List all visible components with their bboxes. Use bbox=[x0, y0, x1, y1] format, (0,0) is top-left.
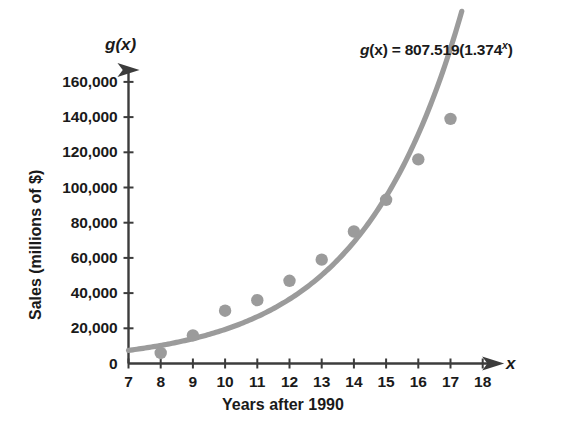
equation-g: g bbox=[360, 41, 369, 58]
x-axis-title: Years after 1990 bbox=[222, 397, 344, 413]
data-point bbox=[251, 294, 263, 306]
y-tick-label: 80,000 bbox=[0, 215, 118, 231]
y-tick-label: 40,000 bbox=[0, 285, 118, 301]
y-tick-label: 20,000 bbox=[0, 320, 118, 336]
y-axis-variable-label: g(x) bbox=[105, 36, 136, 53]
data-point bbox=[187, 329, 199, 341]
y-tick-label: 140,000 bbox=[0, 109, 118, 125]
y-tick-label: 100,000 bbox=[0, 180, 118, 196]
y-tick-label: 60,000 bbox=[0, 250, 118, 266]
equation-annotation: g(x) = 807.519(1.374x) bbox=[360, 40, 513, 58]
data-point bbox=[155, 347, 167, 359]
equation-arg: (x) bbox=[369, 41, 387, 58]
chart-figure: g(x) x Sales (millions of $) Years after… bbox=[0, 0, 564, 434]
equation-body: = 807.519(1.374 bbox=[388, 41, 502, 58]
data-point bbox=[316, 253, 328, 265]
y-tick-label: 0 bbox=[0, 356, 118, 372]
regression-curve bbox=[129, 11, 462, 350]
data-point bbox=[348, 225, 360, 237]
axis-lines bbox=[129, 70, 498, 364]
y-tick-label: 160,000 bbox=[0, 74, 118, 90]
data-point bbox=[219, 305, 231, 317]
data-point bbox=[412, 153, 424, 165]
data-point bbox=[380, 194, 392, 206]
y-tick-label: 120,000 bbox=[0, 144, 118, 160]
equation-suffix: ) bbox=[508, 41, 513, 58]
x-tick-label: 18 bbox=[461, 374, 505, 390]
data-point bbox=[283, 275, 295, 287]
data-point bbox=[444, 113, 456, 125]
x-axis-variable-label: x bbox=[506, 355, 515, 372]
